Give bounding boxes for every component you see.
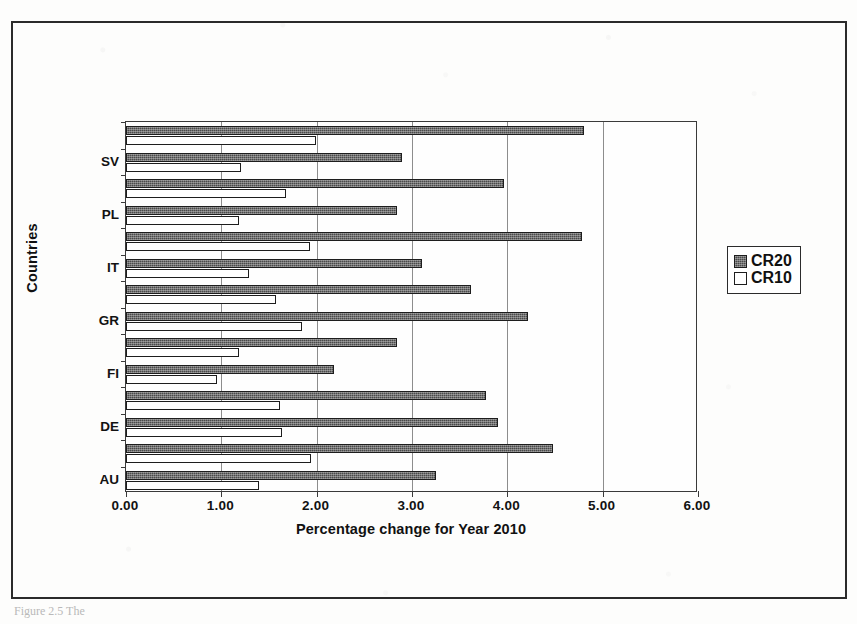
y-axis-category-label: PL bbox=[102, 206, 119, 221]
bar-cr10[interactable] bbox=[126, 163, 241, 172]
x-axis-title: Percentage change for Year 2010 bbox=[125, 521, 697, 537]
chart-legend: CR20 CR10 bbox=[727, 246, 801, 294]
y-axis-category-label: DE bbox=[100, 418, 119, 433]
bar-cr10[interactable] bbox=[126, 189, 286, 198]
bar-group bbox=[126, 440, 696, 467]
bar-cr20[interactable] bbox=[126, 418, 498, 427]
y-axis-tick bbox=[121, 308, 126, 309]
bar-cr20[interactable] bbox=[126, 179, 504, 188]
bar-cr10[interactable] bbox=[126, 348, 239, 357]
bar-group bbox=[126, 175, 696, 202]
x-axis-tick-label: 1.00 bbox=[207, 498, 234, 513]
bar-cr10[interactable] bbox=[126, 428, 282, 437]
legend-item-cr20[interactable]: CR20 bbox=[734, 253, 792, 269]
bar-cr10[interactable] bbox=[126, 454, 311, 463]
bar-cr20[interactable] bbox=[126, 471, 436, 480]
x-axis-tick bbox=[603, 491, 604, 497]
bar-cr10[interactable] bbox=[126, 295, 276, 304]
bar-cr20[interactable] bbox=[126, 444, 553, 453]
bar-group bbox=[126, 414, 696, 441]
y-axis-tick bbox=[121, 175, 126, 176]
bar-group bbox=[126, 334, 696, 361]
y-axis-tick bbox=[121, 228, 126, 229]
plot-area bbox=[125, 121, 697, 492]
bar-group bbox=[126, 281, 696, 308]
x-axis-tick-label: 2.00 bbox=[302, 498, 329, 513]
x-axis-tick bbox=[507, 491, 508, 497]
y-axis-category-label: IT bbox=[107, 259, 119, 274]
bar-group bbox=[126, 387, 696, 414]
figure-caption: Figure 2.5 The bbox=[14, 604, 85, 619]
bar-cr20[interactable] bbox=[126, 391, 486, 400]
bar-cr10[interactable] bbox=[126, 401, 280, 410]
bar-cr20[interactable] bbox=[126, 206, 397, 215]
bar-cr20[interactable] bbox=[126, 259, 422, 268]
bar-group bbox=[126, 228, 696, 255]
y-axis-category-label: GR bbox=[99, 312, 119, 327]
bar-group bbox=[126, 202, 696, 229]
bar-chart: SVPLITGRFIDEAU 0.001.002.003.004.005.006… bbox=[0, 0, 857, 624]
legend-label-cr10: CR10 bbox=[751, 270, 792, 286]
x-axis-tick bbox=[698, 491, 699, 497]
legend-item-cr10[interactable]: CR10 bbox=[734, 270, 792, 286]
x-axis-tick-label: 0.00 bbox=[111, 498, 138, 513]
bar-cr10[interactable] bbox=[126, 481, 259, 490]
bar-cr20[interactable] bbox=[126, 285, 471, 294]
x-axis-tick bbox=[221, 491, 222, 497]
y-axis-category-label: AU bbox=[100, 471, 120, 486]
bar-cr20[interactable] bbox=[126, 365, 334, 374]
bar-cr10[interactable] bbox=[126, 136, 316, 145]
bar-rows bbox=[126, 122, 696, 491]
legend-swatch-cr10-icon bbox=[734, 272, 747, 285]
y-axis-tick bbox=[121, 414, 126, 415]
bar-group bbox=[126, 149, 696, 176]
bar-cr20[interactable] bbox=[126, 126, 584, 135]
y-axis-tick bbox=[121, 149, 126, 150]
y-axis-category-label: SV bbox=[101, 153, 119, 168]
y-axis-category-label: FI bbox=[107, 365, 119, 380]
y-axis-tick bbox=[121, 281, 126, 282]
y-axis-tick bbox=[121, 440, 126, 441]
bar-cr10[interactable] bbox=[126, 322, 302, 331]
y-axis-tick bbox=[121, 122, 126, 123]
y-axis-tick bbox=[121, 361, 126, 362]
bar-group bbox=[126, 122, 696, 149]
y-axis-category-labels: SVPLITGRFIDEAU bbox=[62, 121, 119, 492]
x-axis-tick-label: 4.00 bbox=[493, 498, 520, 513]
y-axis-tick bbox=[121, 334, 126, 335]
y-axis-tick bbox=[121, 387, 126, 388]
x-axis-tick bbox=[126, 491, 127, 497]
y-axis-tick bbox=[121, 202, 126, 203]
bar-cr10[interactable] bbox=[126, 269, 249, 278]
x-axis-tick bbox=[317, 491, 318, 497]
bar-group bbox=[126, 255, 696, 282]
x-axis-tick bbox=[412, 491, 413, 497]
x-axis-tick-label: 3.00 bbox=[397, 498, 424, 513]
bar-cr20[interactable] bbox=[126, 232, 582, 241]
y-axis-tick bbox=[121, 467, 126, 468]
bar-group bbox=[126, 467, 696, 494]
x-axis-tick-label: 6.00 bbox=[683, 498, 710, 513]
x-axis-tick-label: 5.00 bbox=[588, 498, 615, 513]
bar-cr20[interactable] bbox=[126, 312, 528, 321]
y-axis-tick bbox=[121, 255, 126, 256]
y-axis-title: Countries bbox=[24, 168, 40, 348]
bar-cr10[interactable] bbox=[126, 242, 310, 251]
bar-group bbox=[126, 308, 696, 335]
legend-label-cr20: CR20 bbox=[751, 253, 792, 269]
legend-swatch-cr20-icon bbox=[734, 255, 747, 268]
bar-group bbox=[126, 361, 696, 388]
bar-cr10[interactable] bbox=[126, 375, 217, 384]
bar-cr20[interactable] bbox=[126, 338, 397, 347]
bar-cr20[interactable] bbox=[126, 153, 402, 162]
bar-cr10[interactable] bbox=[126, 216, 239, 225]
